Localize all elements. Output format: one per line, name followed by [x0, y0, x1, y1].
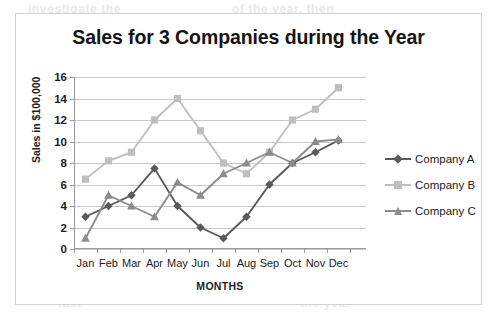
- y-axis-tick-label: 16: [54, 71, 67, 83]
- x-axis-tick-label: Mar: [122, 257, 141, 269]
- data-point-marker: [289, 116, 296, 123]
- x-axis-tick-label: Jun: [192, 257, 210, 269]
- data-point-marker: [81, 234, 90, 242]
- legend-swatch-square-icon: [385, 179, 411, 191]
- y-axis-tick-label: 6: [61, 179, 67, 191]
- x-axis-tick: [97, 249, 98, 253]
- x-axis-tick-label: Oct: [284, 257, 301, 269]
- y-axis-tick-label: 0: [61, 243, 67, 255]
- legend-marker-square-icon: [394, 181, 402, 189]
- data-point-marker: [81, 213, 89, 221]
- series-company-c: [81, 135, 343, 242]
- y-axis-tick-label: 4: [61, 200, 67, 212]
- data-point-marker: [151, 116, 158, 123]
- legend-swatch-triangle-icon: [385, 205, 411, 217]
- legend-item-company-a[interactable]: Company A: [385, 146, 476, 172]
- x-axis-tick: [350, 249, 351, 253]
- x-axis-tick: [189, 249, 190, 253]
- y-axis-tick-label: 14: [54, 93, 67, 105]
- data-point-marker: [311, 148, 319, 156]
- y-axis-tick-label: 10: [54, 136, 67, 148]
- data-point-marker: [128, 149, 135, 156]
- x-axis-title: MONTHS: [74, 280, 366, 292]
- legend-label: Company B: [415, 179, 475, 191]
- data-point-marker: [312, 106, 319, 113]
- x-axis-tick: [281, 249, 282, 253]
- data-point-marker: [105, 157, 112, 164]
- gridline: [74, 249, 366, 250]
- series-company-b: [82, 84, 342, 183]
- y-axis-tick-label: 2: [61, 222, 67, 234]
- plot-area: 0246810121416 JanFebMarAprMayJunJulAugSe…: [74, 77, 366, 249]
- data-point-marker: [173, 178, 182, 186]
- data-point-marker: [335, 84, 342, 91]
- series-lines: [74, 77, 366, 249]
- series-line: [85, 139, 338, 238]
- x-axis-tick: [212, 249, 213, 253]
- x-axis-tick: [120, 249, 121, 253]
- data-point-marker: [174, 95, 181, 102]
- x-axis-tick-label: Feb: [99, 257, 118, 269]
- chart-legend: Company ACompany BCompany C: [385, 146, 476, 224]
- data-point-marker: [197, 127, 204, 134]
- series-line: [85, 88, 338, 179]
- y-axis-title: Sales in $100,000: [30, 77, 42, 163]
- legend-swatch-diamond-icon: [385, 153, 411, 165]
- x-axis-tick: [166, 249, 167, 253]
- x-axis-tick-label: Nov: [306, 257, 326, 269]
- chart-title: Sales for 3 Companies during the Year: [16, 26, 481, 49]
- x-axis-tick: [327, 249, 328, 253]
- x-axis-tick: [74, 249, 75, 253]
- data-point-marker: [243, 170, 250, 177]
- y-axis-tick-label: 8: [61, 157, 67, 169]
- legend-label: Company A: [415, 153, 474, 165]
- legend-marker-diamond-icon: [393, 154, 402, 163]
- legend-item-company-c[interactable]: Company C: [385, 198, 476, 224]
- x-axis-tick-label: Aug: [237, 257, 257, 269]
- y-axis-tick-label: 12: [54, 114, 67, 126]
- x-axis-tick-label: Jan: [77, 257, 95, 269]
- x-axis-tick: [304, 249, 305, 253]
- x-axis-tick-label: Dec: [329, 257, 349, 269]
- data-point-marker: [220, 159, 227, 166]
- data-point-marker: [104, 191, 113, 199]
- x-axis-tick-label: Jul: [216, 257, 230, 269]
- x-axis-tick-label: Apr: [146, 257, 163, 269]
- x-axis-tick: [258, 249, 259, 253]
- x-axis-tick: [235, 249, 236, 253]
- x-axis-tick-label: May: [167, 257, 188, 269]
- legend-item-company-b[interactable]: Company B: [385, 172, 476, 198]
- x-axis-tick-label: Sep: [260, 257, 280, 269]
- data-point-marker: [104, 202, 112, 210]
- x-axis-tick: [143, 249, 144, 253]
- chart-frame: Sales for 3 Companies during the Year Sa…: [15, 13, 482, 305]
- data-point-marker: [82, 176, 89, 183]
- legend-label: Company C: [415, 205, 476, 217]
